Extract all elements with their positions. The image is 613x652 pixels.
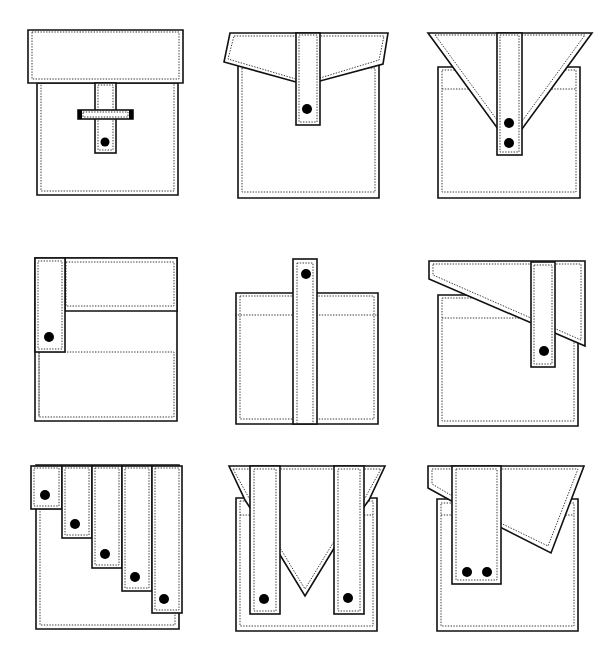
button-icon	[482, 567, 492, 577]
button-icon	[504, 118, 514, 128]
strap-tab	[31, 466, 62, 509]
pocket-2-angled-flap-tab	[224, 33, 388, 198]
button-icon	[302, 104, 312, 114]
strap-tab	[452, 466, 501, 584]
button-icon	[462, 567, 472, 577]
button-icon	[504, 138, 514, 148]
pocket-flap	[28, 30, 183, 83]
button-icon	[259, 594, 269, 604]
pocket-sketch-sheet	[0, 0, 613, 652]
strap-tab	[122, 466, 152, 591]
strap-tab	[497, 33, 522, 155]
strap-tab	[250, 466, 280, 614]
pocket-5-long-center-strap	[235, 259, 378, 424]
pocket-1-rect-flap-buckle	[28, 30, 183, 195]
button-icon	[101, 138, 110, 147]
button-icon	[44, 332, 54, 342]
pocket-6-asymmetric-slant-flap	[429, 261, 585, 426]
button-icon	[539, 346, 549, 356]
buckle-icon	[78, 110, 133, 119]
button-icon	[159, 594, 169, 604]
pocket-flap	[65, 258, 177, 311]
button-icon	[343, 593, 353, 603]
buckle-end-right	[129, 110, 133, 119]
button-icon	[100, 549, 110, 559]
button-icon	[70, 519, 80, 529]
button-icon	[130, 572, 140, 582]
button-icon	[301, 269, 311, 279]
buckle-end-left	[78, 110, 82, 119]
pocket-4-side-tab-upper-panel	[35, 258, 177, 421]
pocket-9-wide-tab-asymmetric-flap	[428, 466, 584, 631]
strap-tab	[152, 466, 182, 613]
pocket-7-stepped-five-tabs	[31, 465, 182, 629]
pocket-3-v-flap-double-button	[428, 33, 592, 198]
button-icon	[40, 490, 50, 500]
pocket-8-double-strap-v-center	[229, 466, 385, 631]
strap-tab	[334, 466, 364, 614]
